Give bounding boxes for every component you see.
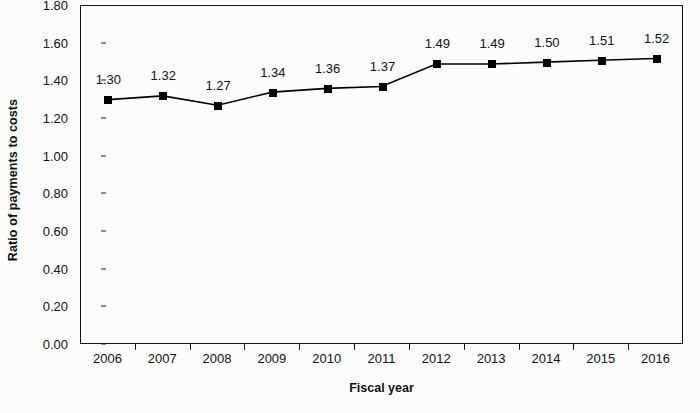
y-tick-label: 0.80	[43, 187, 68, 200]
data-point-marker	[488, 60, 496, 68]
x-tick-mark	[190, 344, 191, 350]
data-point-marker	[653, 55, 661, 63]
data-point-marker	[104, 96, 112, 104]
x-tick-label: 2014	[531, 352, 560, 365]
x-tick-label: 2006	[93, 352, 122, 365]
y-tick-label: 1.60	[43, 36, 68, 49]
y-tick-label: 0.60	[43, 225, 68, 238]
data-point-label: 1.51	[589, 34, 614, 47]
data-point-label: 1.52	[644, 32, 669, 45]
y-axis-title-label: Ratio of payments to costs	[6, 99, 20, 261]
data-point-label: 1.34	[260, 66, 285, 79]
y-tick-label: 1.00	[43, 149, 68, 162]
data-point-marker	[214, 102, 222, 110]
x-tick-label: 2009	[257, 352, 286, 365]
x-tick-mark	[519, 344, 520, 350]
x-tick-mark	[244, 344, 245, 350]
series-line	[81, 6, 682, 343]
x-tick-label: 2008	[203, 352, 232, 365]
y-axis-tick-labels: 1.801.601.401.201.000.800.600.400.200.00	[26, 0, 74, 360]
data-point-marker	[379, 83, 387, 91]
data-point-marker	[543, 59, 551, 67]
x-tick-mark	[628, 344, 629, 350]
x-tick-label: 2007	[148, 352, 177, 365]
data-point-marker	[324, 85, 332, 93]
x-tick-mark	[573, 344, 574, 350]
data-point-label: 1.32	[151, 69, 176, 82]
data-point-marker	[269, 89, 277, 97]
x-tick-label: 2010	[312, 352, 341, 365]
data-point-marker	[433, 60, 441, 68]
y-axis-title: Ratio of payments to costs	[0, 0, 26, 360]
y-tick-label: 1.20	[43, 112, 68, 125]
data-point-label: 1.37	[370, 60, 395, 73]
data-point-label: 1.30	[96, 73, 121, 86]
data-point-label: 1.27	[205, 79, 230, 92]
plot-inner: 1.301.321.271.341.361.371.491.491.501.51…	[81, 6, 682, 343]
data-point-label: 1.36	[315, 62, 340, 75]
y-tick-label: 1.80	[43, 0, 68, 12]
x-tick-label: 2012	[422, 352, 451, 365]
data-point-label: 1.50	[534, 36, 559, 49]
x-axis-tick-labels: 2006200720082009201020112012201320142015…	[80, 352, 683, 372]
x-tick-mark	[409, 344, 410, 350]
x-tick-mark	[354, 344, 355, 350]
chart-container: Ratio of payments to costs 1.801.601.401…	[0, 0, 700, 413]
data-point-marker	[159, 92, 167, 100]
y-tick-label: 0.40	[43, 262, 68, 275]
x-tick-label: 2011	[368, 352, 396, 365]
data-point-marker	[598, 57, 606, 65]
x-tick-label: 2013	[477, 352, 506, 365]
x-axis-title: Fiscal year	[80, 381, 683, 395]
x-axis-tick-marks	[80, 344, 683, 351]
plot-area: 1.301.321.271.341.361.371.491.491.501.51…	[80, 5, 683, 344]
y-tick-label: 0.00	[43, 338, 68, 351]
x-tick-label: 2016	[641, 352, 670, 365]
x-tick-mark	[299, 344, 300, 350]
y-tick-label: 1.40	[43, 74, 68, 87]
x-tick-label: 2015	[586, 352, 615, 365]
data-point-label: 1.49	[425, 37, 450, 50]
data-point-label: 1.49	[479, 37, 504, 50]
x-tick-mark	[135, 344, 136, 350]
x-tick-mark	[464, 344, 465, 350]
y-tick-label: 0.20	[43, 300, 68, 313]
